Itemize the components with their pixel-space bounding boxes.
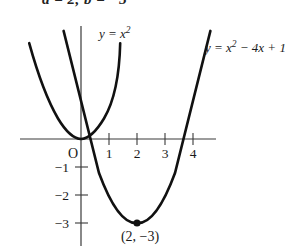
curve-y-equals-x-squared (29, 43, 120, 139)
x-tick-label-3: 3 (162, 146, 169, 161)
y-tick-label-minus2: −2 (55, 188, 69, 203)
curve-label-y-equals-x-squared: y = x2 (97, 25, 131, 41)
cut-off-heading: a = 2, b = −3 (42, 0, 127, 8)
x-tick-label-1: 1 (106, 146, 113, 161)
x-tick-label-4: 4 (190, 146, 197, 161)
origin-label: O (68, 146, 78, 161)
x-tick-label-2: 2 (134, 146, 141, 161)
svg-text:y = x2 − 4x + 1: y = x2 − 4x + 1 (203, 39, 286, 55)
parabola-figure: a = 2, b = −3 1 2 3 4 O −1 −2 −3 (2 (0, 0, 306, 246)
y-tick-label-minus3: −3 (55, 216, 70, 231)
curve-y-equals-x-squared-minus-4x-plus-1 (64, 31, 211, 223)
curve-label-y-equals-x-squared-minus-4x-plus-1: y = x2 − 4x + 1 (203, 39, 286, 55)
graph-svg: 1 2 3 4 O −1 −2 −3 (2, −3) y = x2 y = x2… (0, 0, 306, 246)
y-tick-label-minus1: −1 (55, 160, 69, 175)
curve1-label-exponent: 2 (126, 25, 131, 35)
vertex-label: (2, −3) (121, 229, 160, 245)
vertex-point-marker (133, 219, 140, 226)
svg-text:y = x2: y = x2 (97, 25, 131, 41)
curve2-label-tail: − 4x + 1 (237, 40, 286, 55)
curve2-label-base: y = x (203, 40, 232, 55)
curve1-label-base: y = x (97, 26, 126, 41)
